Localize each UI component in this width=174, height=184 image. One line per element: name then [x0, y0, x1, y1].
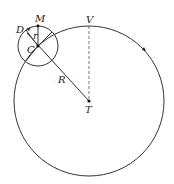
point-T	[87, 99, 90, 102]
point-C	[36, 44, 39, 47]
label-R: R	[57, 74, 66, 85]
label-D: D	[15, 24, 24, 35]
label-C: C	[27, 44, 35, 55]
orbit-diagram: D M r C V R T	[0, 0, 174, 184]
line-C-upper-right	[38, 32, 52, 46]
point-M	[37, 25, 40, 28]
label-T: T	[85, 104, 93, 115]
label-V: V	[86, 14, 95, 25]
label-M: M	[34, 13, 46, 24]
